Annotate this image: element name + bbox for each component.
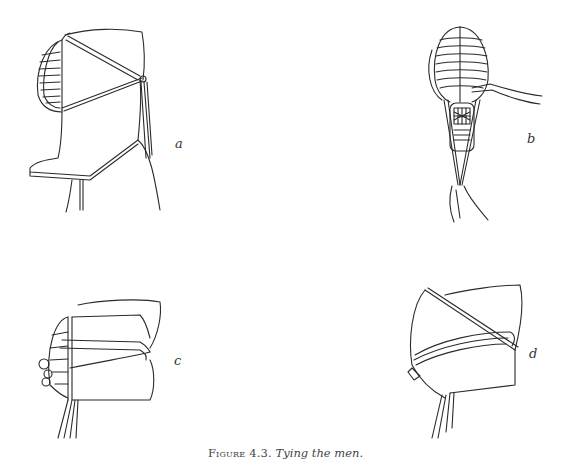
men-wrapped-illustration — [0, 260, 200, 440]
figure-panel-b — [380, 0, 571, 240]
panel-label-a: a — [175, 136, 183, 151]
figure-caption: Figure 4.3. Tying the men. — [0, 446, 571, 460]
panel-label-b: b — [527, 131, 535, 146]
men-front-view-illustration — [380, 0, 571, 240]
figure-panel-c — [0, 260, 200, 440]
men-side-view-illustration — [0, 0, 240, 220]
figure-panel-d — [390, 260, 571, 440]
figure-panel-a — [0, 0, 240, 220]
figure-title: Tying the men. — [276, 446, 364, 460]
panel-label-c: c — [174, 353, 181, 368]
figure-number: Figure 4.3. — [208, 446, 272, 460]
panel-label-d: d — [529, 346, 537, 361]
men-folded-tied-illustration — [390, 260, 571, 440]
